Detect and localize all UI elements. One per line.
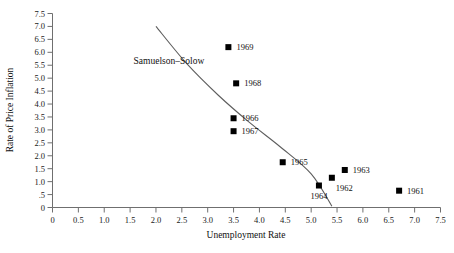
point-label: 1964 (310, 191, 328, 201)
x-axis-title: Unemployment Rate (207, 230, 286, 240)
x-tick-label: 4.0 (254, 215, 265, 225)
x-tick-label: 0.5 (73, 215, 84, 225)
y-tick-label: 7.0 (34, 21, 45, 31)
point-label: 1963 (353, 165, 370, 175)
point-marker (316, 183, 322, 189)
point-marker (225, 44, 231, 50)
y-tick-label: 2.0 (34, 151, 45, 161)
point-label: 1969 (236, 42, 253, 52)
point-marker (396, 188, 402, 194)
point-marker (231, 128, 237, 134)
x-tick-label: 1.5 (125, 215, 136, 225)
y-tick-label: 6.0 (34, 47, 45, 57)
y-tick-label: 1.0 (34, 177, 45, 187)
point-label: 1962 (336, 183, 353, 193)
x-tick-label: 1.0 (99, 215, 110, 225)
data-point-1968: 1968 (233, 78, 261, 88)
y-axis: 0.51.01.52.02.53.03.54.04.55.05.56.06.57… (34, 9, 52, 213)
point-label: 1968 (244, 78, 261, 88)
y-tick-label: 5.0 (34, 73, 45, 83)
y-tick-group: 0.51.01.52.02.53.03.54.04.55.05.56.06.57… (34, 9, 52, 213)
data-point-1969: 1969 (225, 42, 253, 52)
phillips-curve-figure: 0.51.01.52.02.53.03.54.04.55.05.56.06.57… (0, 0, 454, 253)
x-tick-label: 2.5 (177, 215, 188, 225)
y-tick-label: 6.5 (34, 34, 45, 44)
y-tick-label: 0 (41, 203, 45, 213)
data-point-1963: 1963 (342, 165, 370, 175)
y-tick-label: 5.5 (34, 60, 45, 70)
point-label: 1966 (242, 113, 259, 123)
point-marker (342, 167, 348, 173)
y-tick-label: 4.0 (34, 99, 45, 109)
x-tick-label: 7.0 (409, 215, 420, 225)
point-label: 1965 (291, 157, 308, 167)
samuelson-solow-curve-label: Samuelson–Solow (134, 56, 205, 66)
x-tick-label: 2.0 (151, 215, 162, 225)
y-tick-label: 7.5 (34, 9, 45, 19)
y-tick-label: 2.5 (34, 138, 45, 148)
x-tick-label: 7.5 (435, 215, 446, 225)
x-tick-label: 3.0 (202, 215, 213, 225)
data-point-1964: 1964 (310, 183, 328, 201)
point-marker (233, 80, 239, 86)
data-point-1962: 1962 (329, 175, 353, 193)
data-point-1961: 1961 (396, 186, 424, 196)
y-tick-label: 3.0 (34, 125, 45, 135)
chart-canvas: 0.51.01.52.02.53.03.54.04.55.05.56.06.57… (0, 0, 454, 253)
data-point-1966: 1966 (231, 113, 259, 123)
y-tick-label: 1.5 (34, 164, 45, 174)
point-marker (280, 159, 286, 165)
data-point-1965: 1965 (280, 157, 308, 167)
x-tick-label: 3.5 (228, 215, 239, 225)
point-marker (231, 115, 237, 121)
x-tick-label: 5.0 (306, 215, 317, 225)
y-axis-title: Rate of Price Inflation (5, 67, 15, 152)
x-tick-label: 6.0 (358, 215, 369, 225)
x-tick-group: 00.51.01.52.02.53.03.54.04.55.05.56.06.5… (50, 208, 445, 226)
x-tick-label: 4.5 (280, 215, 291, 225)
y-tick-label: .5 (39, 190, 45, 200)
data-points-layer: 196919681966196719651963196219641961 (225, 42, 424, 200)
x-axis: 00.51.01.52.02.53.03.54.04.55.05.56.06.5… (50, 208, 445, 226)
point-label: 1967 (242, 126, 259, 136)
x-tick-label: 0 (50, 215, 54, 225)
point-label: 1961 (407, 186, 424, 196)
point-marker (329, 175, 335, 181)
x-tick-label: 5.5 (332, 215, 343, 225)
data-point-1967: 1967 (231, 126, 259, 136)
y-tick-label: 4.5 (34, 86, 45, 96)
x-tick-label: 6.5 (383, 215, 394, 225)
y-tick-label: 3.5 (34, 112, 45, 122)
